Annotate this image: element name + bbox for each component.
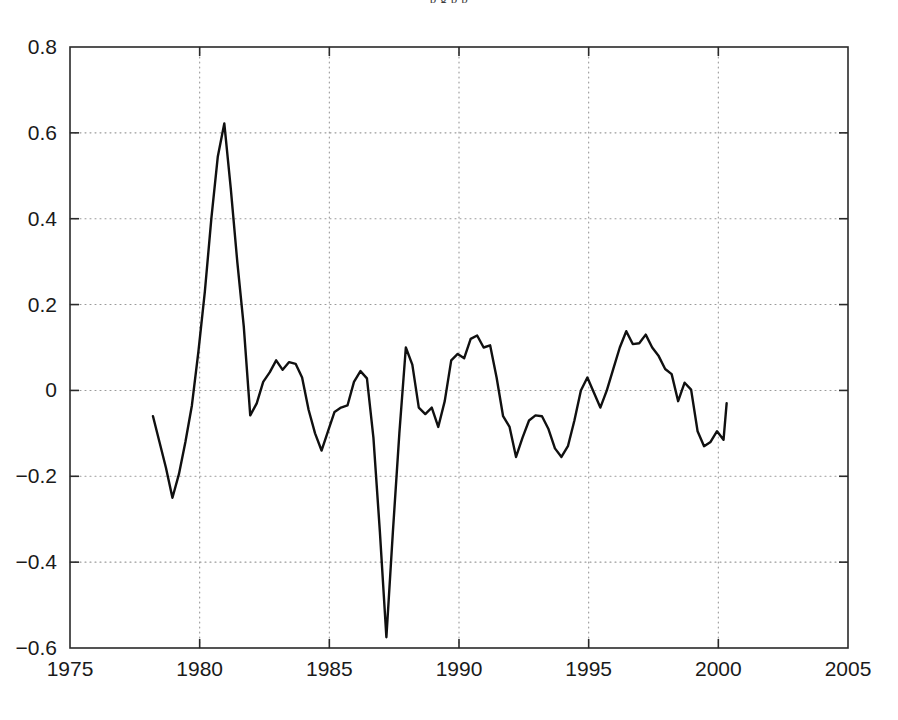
x-axis-tick-label: 1980 [176,657,223,680]
line-chart: −0.6−0.4−0.200.20.40.60.8197519801985199… [0,0,898,720]
x-axis-tick-label: 1975 [47,657,94,680]
y-axis-tick-label: 0.8 [28,35,57,58]
series-line-0 [153,123,727,637]
tick-label-layer: −0.6−0.4−0.200.20.40.60.8197519801985199… [16,35,872,680]
y-axis-tick-label: −0.6 [16,636,57,659]
x-axis-tick-label: 1990 [436,657,483,680]
grid-layer [70,47,848,648]
y-axis-tick-label: 0.2 [28,293,57,316]
y-axis-tick-label: 0 [45,378,57,401]
figure-container: p g p p −0.6−0.4−0.200.20.40.60.81975198… [0,0,898,720]
x-axis-tick-label: 2000 [695,657,742,680]
x-axis-tick-label: 2005 [825,657,872,680]
y-axis-tick-label: −0.2 [16,464,57,487]
data-series-layer [153,123,727,637]
y-axis-tick-label: −0.4 [16,550,58,573]
y-axis-tick-label: 0.6 [28,121,57,144]
x-axis-tick-label: 1985 [306,657,353,680]
y-axis-tick-label: 0.4 [28,207,58,230]
x-axis-tick-label: 1995 [565,657,612,680]
